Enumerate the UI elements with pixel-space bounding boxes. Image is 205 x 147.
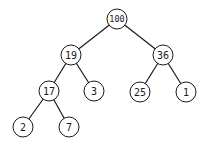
node-label: 36 (157, 50, 169, 61)
node-label: 25 (134, 87, 146, 98)
tree-node: 7 (59, 117, 79, 137)
node-label: 17 (43, 86, 55, 97)
binary-tree-diagram: 100 19 36 17 3 25 1 2 (0, 0, 205, 147)
node-label: 7 (66, 122, 72, 133)
node-label: 2 (20, 122, 26, 133)
node-label: 1 (183, 87, 189, 98)
node-label: 19 (65, 50, 77, 61)
node-label: 100 (109, 14, 124, 24)
tree-node: 2 (13, 117, 33, 137)
tree-node: 3 (84, 81, 104, 101)
tree-node: 25 (130, 82, 150, 102)
tree-node: 36 (153, 45, 173, 65)
node-label: 3 (91, 86, 97, 97)
tree-node: 1 (176, 82, 196, 102)
tree-node: 17 (39, 81, 59, 101)
tree-node-root: 100 (107, 9, 127, 29)
tree-node: 19 (61, 45, 81, 65)
edges (23, 19, 186, 127)
